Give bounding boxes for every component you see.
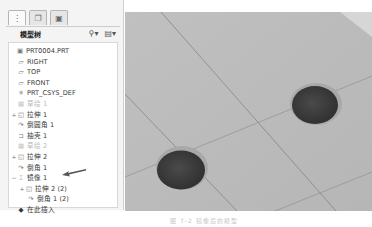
sketch-icon: ▦ (17, 99, 25, 110)
tree-item-chamfer-1-copy[interactable]: ↷ 倒角 1 (2) (9, 194, 117, 205)
tree-item-label: FRONT (27, 78, 50, 89)
model-render (125, 12, 372, 211)
hole-upper-right (292, 86, 338, 124)
3d-viewport[interactable] (125, 12, 372, 211)
model-tree: ▣ PRT0004.PRT ▱ RIGHT ▱ TOP ▱ FRONT ✳ PR… (8, 42, 118, 208)
tree-item-round-1[interactable]: ↷ 倒圆角 1 (9, 120, 117, 131)
tree-item-label: PRT_CSYS_DEF (27, 88, 76, 99)
layers-icon: ❐ (34, 14, 41, 23)
tree-item-insert-here[interactable]: ◆ 在此插入 (9, 205, 117, 216)
tree-item-shell-1[interactable]: ⊐ 抽壳 1 (9, 131, 117, 142)
tree-item-label: 拉伸 1 (27, 110, 47, 121)
panel-title: 模型树 (6, 29, 41, 39)
tree-item-label: 拉伸 2 (27, 152, 47, 163)
tree-item-label: 抽壳 1 (27, 131, 47, 142)
tree-item-label: 拉伸 2 (2) (35, 184, 67, 195)
sketch-icon: ▦ (17, 141, 25, 152)
tree-item-label: PRT0004.PRT (26, 46, 69, 57)
mirror-icon: ⌶ (17, 173, 25, 184)
tree-item-top[interactable]: ▱ TOP (9, 67, 117, 78)
tree-item-sketch-1[interactable]: ▦ 草绘 1 (9, 99, 117, 110)
tree-item-label: 在此插入 (27, 205, 55, 216)
datum-plane-icon: ▱ (17, 67, 25, 78)
tree-item-csys[interactable]: ✳ PRT_CSYS_DEF (9, 88, 117, 99)
round-icon: ↷ (17, 120, 25, 131)
chamfer-icon: ↷ (17, 163, 25, 174)
tree-item-label: 倒角 1 (2) (37, 194, 69, 205)
chamfer-icon: ↷ (27, 194, 35, 205)
folder-tab[interactable]: ▣ (50, 10, 68, 25)
tree-item-extrude-2[interactable]: + ◱ 拉伸 2 (9, 152, 117, 163)
hole-lower-left (157, 151, 205, 190)
tree-icon: ⋮ (13, 14, 21, 23)
insert-marker-icon: ◆ (17, 205, 25, 216)
show-icon[interactable]: ⚲▾ (89, 29, 99, 38)
tree-item-label: 倒角 1 (27, 163, 47, 174)
figure-caption: 图 7-2 镜像后的模型 (170, 216, 238, 225)
model-tree-tab[interactable]: ⋮ (8, 10, 26, 25)
datum-plane-icon: ▱ (17, 57, 25, 68)
layers-tab[interactable]: ❐ (29, 10, 47, 25)
panel-header: 模型树 ⚲▾ ▤▾ (6, 26, 120, 40)
tree-item-extrude-1[interactable]: + ◱ 拉伸 1 (9, 110, 117, 121)
model-tree-panel: ⋮ ❐ ▣ 模型树 ⚲▾ ▤▾ ▣ PRT0004.PRT ▱ RIGHT ▱ … (0, 0, 124, 210)
tree-item-part[interactable]: ▣ PRT0004.PRT (9, 46, 117, 57)
tree-item-right[interactable]: ▱ RIGHT (9, 57, 117, 68)
tree-item-label: TOP (27, 67, 40, 78)
shell-icon: ⊐ (17, 131, 25, 142)
settings-icon[interactable]: ▤▾ (104, 29, 116, 38)
csys-icon: ✳ (17, 88, 25, 99)
pointer-arrow-icon (62, 169, 86, 177)
header-tools: ⚲▾ ▤▾ (89, 29, 120, 38)
folder-icon: ▣ (55, 14, 63, 23)
panel-tabs: ⋮ ❐ ▣ (8, 10, 68, 26)
tree-item-front[interactable]: ▱ FRONT (9, 78, 117, 89)
extrude-icon: ◱ (25, 184, 33, 195)
tree-item-label: 草绘 2 (27, 141, 47, 152)
tree-item-label: 草绘 1 (27, 99, 47, 110)
tree-item-label: RIGHT (27, 57, 48, 68)
tree-item-sketch-2[interactable]: ▦ 草绘 2 (9, 141, 117, 152)
tree-item-label: 倒圆角 1 (27, 120, 54, 131)
extrude-icon: ◱ (17, 152, 25, 163)
datum-plane-icon: ▱ (17, 78, 25, 89)
extrude-icon: ◱ (17, 110, 25, 121)
tree-item-extrude-2-copy[interactable]: + ◱ 拉伸 2 (2) (9, 184, 117, 195)
part-icon: ▣ (16, 46, 24, 57)
tree-item-label: 镜像 1 (27, 173, 47, 184)
